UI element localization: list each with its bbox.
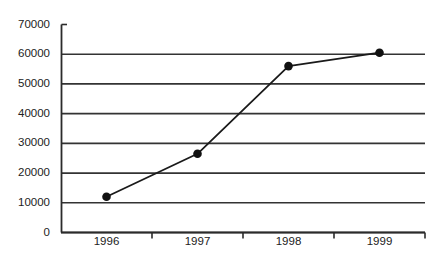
- x-axis-tick-label: 1998: [243, 236, 334, 256]
- data-point-1997: [193, 150, 202, 159]
- plot-area: [0, 0, 440, 266]
- x-axis-labels: 1996 1997 1998 1999: [61, 236, 425, 256]
- line-chart: 70000 60000 50000 40000 30000 20000 1000…: [0, 0, 440, 266]
- gridlines: [61, 54, 425, 232]
- x-axis-tick-label: 1997: [152, 236, 243, 256]
- x-axis-tick-label: 1999: [334, 236, 425, 256]
- data-line: [107, 53, 380, 197]
- data-point-1996: [102, 193, 111, 202]
- data-point-1999: [375, 48, 384, 57]
- data-point-1998: [284, 62, 293, 71]
- x-axis-tick-label: 1996: [61, 236, 152, 256]
